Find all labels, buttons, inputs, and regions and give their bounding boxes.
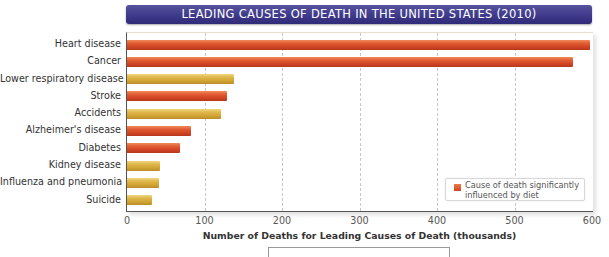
bar — [127, 40, 590, 50]
x-tick-label: 600 — [583, 215, 601, 226]
x-tick-label: 200 — [273, 215, 291, 226]
bar — [127, 161, 160, 171]
caption-box — [268, 247, 450, 257]
category-label: Accidents — [0, 104, 121, 121]
chart-title: LEADING CAUSES OF DEATH IN THE UNITED ST… — [126, 5, 592, 24]
bar — [127, 143, 180, 153]
bar — [127, 195, 152, 205]
bar-row — [127, 140, 593, 157]
category-label: Stroke — [0, 87, 121, 104]
x-tick-label: 400 — [428, 215, 446, 226]
category-label: Suicide — [0, 191, 121, 208]
category-label: Kidney disease — [0, 156, 121, 173]
bar — [127, 57, 573, 67]
x-axis-title: Number of Deaths for Leading Causes of D… — [126, 230, 593, 241]
bar-row — [127, 88, 593, 105]
x-tick-label: 500 — [505, 215, 523, 226]
bar-row — [127, 71, 593, 88]
bar-row — [127, 122, 593, 139]
x-tick-label: 0 — [124, 215, 130, 226]
bar-row — [127, 157, 593, 174]
x-tick-label: 100 — [195, 215, 213, 226]
plot-area: Cause of death significantly influenced … — [126, 32, 593, 212]
bar-row — [127, 53, 593, 70]
bar — [127, 178, 159, 188]
bar-row — [127, 36, 593, 53]
category-label: Alzheimer's disease — [0, 121, 121, 138]
bar — [127, 126, 191, 136]
bar — [127, 109, 221, 119]
x-tick-label: 300 — [350, 215, 368, 226]
legend: Cause of death significantly influenced … — [445, 178, 585, 201]
bar — [127, 91, 227, 101]
bar — [127, 74, 234, 84]
category-label: Lower respiratory disease — [0, 70, 121, 87]
category-label: Influenza and pneumonia — [0, 173, 121, 190]
category-labels: Heart disease Cancer Lower respiratory d… — [0, 35, 121, 208]
bar-row — [127, 105, 593, 122]
legend-label: Cause of death significantly influenced … — [465, 181, 583, 200]
category-label: Diabetes — [0, 139, 121, 156]
category-label: Cancer — [0, 52, 121, 69]
legend-swatch-diet — [454, 184, 461, 191]
x-axis-ticks: 0100200300400500600 — [0, 215, 609, 229]
category-label: Heart disease — [0, 35, 121, 52]
